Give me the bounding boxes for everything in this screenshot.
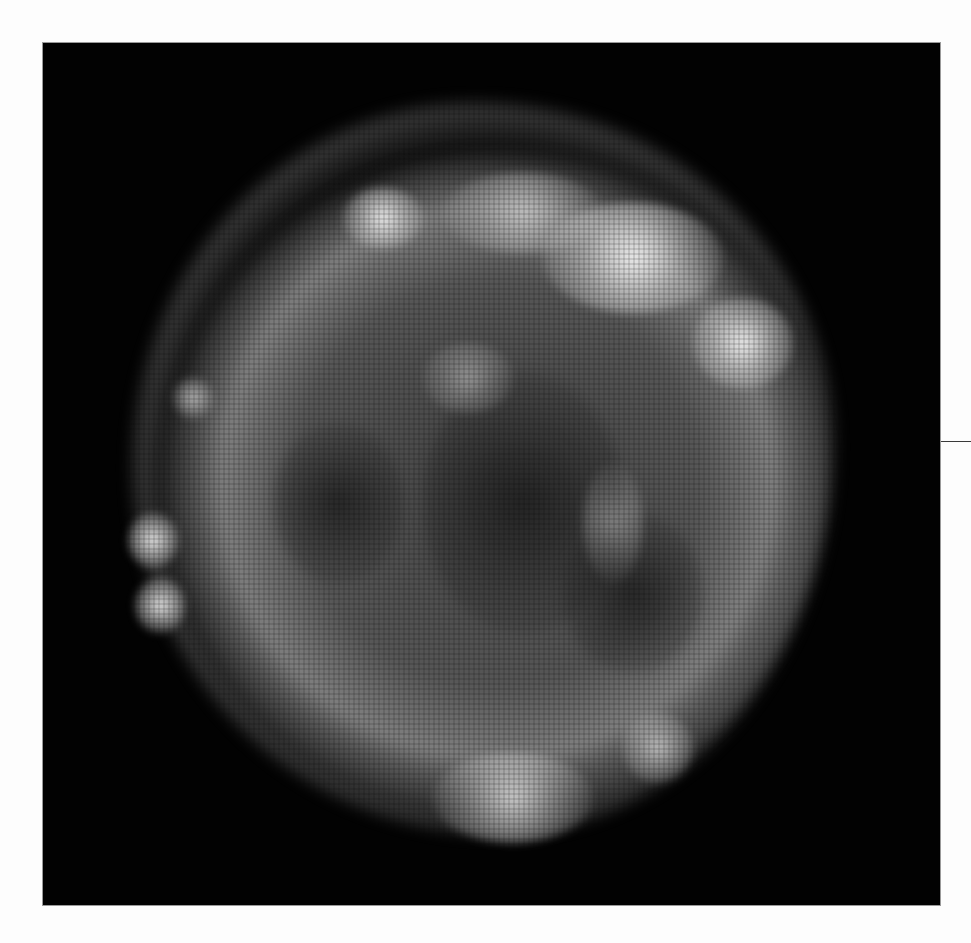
bright-knot-right-rim — [693, 298, 793, 388]
bright-knot-left-lower — [135, 578, 185, 633]
interior-dark-region — [273, 423, 403, 583]
bright-knot-top-left — [343, 188, 423, 248]
bright-band-top — [443, 173, 603, 253]
bright-knot-left-mid — [173, 378, 213, 418]
interior-filament — [583, 463, 643, 583]
interior-filament — [423, 343, 513, 413]
leader-line — [941, 441, 971, 442]
astronomical-image — [43, 43, 940, 905]
bright-knot-bottom-right — [623, 713, 693, 783]
bright-knot-bottom — [433, 753, 593, 843]
bright-knot-left-upper — [128, 513, 178, 568]
